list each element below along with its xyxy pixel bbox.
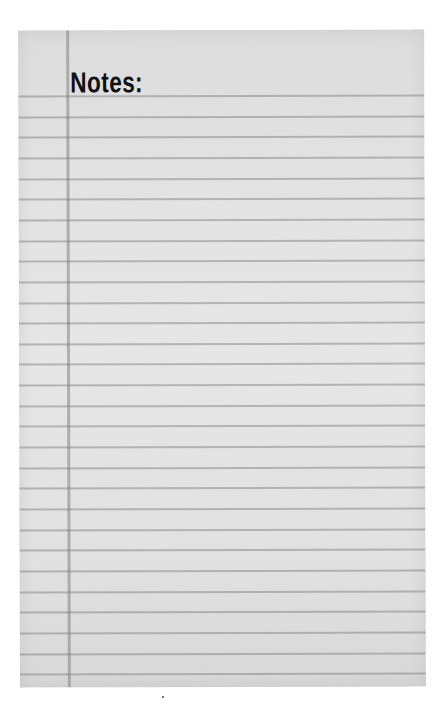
- ruled-line: [19, 404, 425, 407]
- margin-line: [66, 30, 71, 687]
- ruled-line: [19, 466, 425, 469]
- ruled-line: [19, 280, 425, 283]
- stray-dot: [162, 696, 164, 698]
- ruled-line: [19, 322, 425, 325]
- ruled-line: [18, 115, 424, 118]
- ruled-line: [20, 549, 426, 552]
- ruled-line: [19, 363, 425, 366]
- ruled-line: [19, 446, 425, 449]
- ruled-line: [20, 569, 426, 572]
- notepad-paper: Notes:: [18, 29, 426, 687]
- ruled-line: [19, 260, 425, 263]
- ruled-line: [18, 156, 424, 159]
- ruled-line: [19, 528, 425, 531]
- notes-heading: Notes:: [70, 68, 143, 97]
- ruled-line: [19, 507, 425, 510]
- ruled-lines: [18, 29, 424, 30]
- ruled-line: [19, 301, 425, 304]
- ruled-line: [20, 631, 426, 634]
- ruled-line: [19, 487, 425, 490]
- ruled-line: [19, 384, 425, 387]
- ruled-line: [19, 342, 425, 345]
- ruled-line: [20, 611, 426, 614]
- ruled-line: [19, 425, 425, 428]
- ruled-line: [19, 198, 425, 201]
- ruled-line: [18, 136, 424, 139]
- ruled-line: [20, 590, 426, 593]
- ruled-line: [19, 177, 425, 180]
- ruled-line: [19, 218, 425, 221]
- ruled-line: [20, 673, 426, 676]
- ruled-line: [20, 652, 426, 655]
- ruled-line: [19, 239, 425, 242]
